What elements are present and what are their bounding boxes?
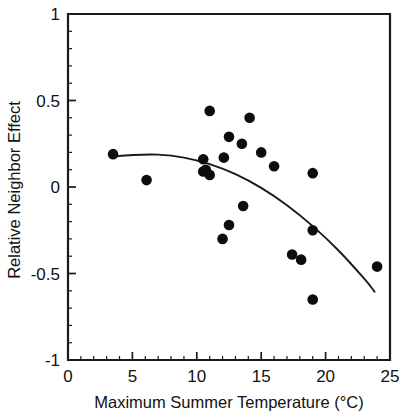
data-point xyxy=(244,113,255,124)
x-tick-label: 10 xyxy=(187,367,206,386)
y-tick-label: 0.5 xyxy=(36,92,60,111)
data-point xyxy=(307,168,318,179)
x-tick-label: 15 xyxy=(252,367,271,386)
x-tick-label: 25 xyxy=(381,367,400,386)
x-tick-label: 20 xyxy=(316,367,335,386)
plot-frame xyxy=(68,14,390,360)
data-point xyxy=(204,106,215,117)
data-point xyxy=(237,138,248,149)
x-tick-label: 5 xyxy=(128,367,137,386)
data-point xyxy=(217,234,228,245)
y-axis-ticks xyxy=(68,14,76,360)
y-tick-label: -1 xyxy=(45,351,60,370)
data-point xyxy=(224,220,235,231)
data-point xyxy=(307,294,318,305)
y-tick-label: 0 xyxy=(51,178,60,197)
fitted-curve xyxy=(113,154,374,291)
data-point xyxy=(204,170,215,181)
data-point xyxy=(287,249,298,260)
data-point xyxy=(307,225,318,236)
x-axis-title: Maximum Summer Temperature (°C) xyxy=(94,393,363,411)
y-tick-label: 1 xyxy=(51,5,60,24)
data-point xyxy=(198,154,209,165)
data-point xyxy=(219,152,230,163)
data-point xyxy=(296,254,307,265)
data-point xyxy=(269,161,280,172)
data-point xyxy=(108,149,119,160)
scatter-plot: 0510152025 10.50-0.5-1 Maximum Summer Te… xyxy=(0,0,406,420)
data-point xyxy=(256,147,267,158)
y-axis-tick-labels: 10.50-0.5-1 xyxy=(31,5,60,370)
data-points xyxy=(108,106,383,305)
x-axis-tick-labels: 0510152025 xyxy=(63,367,399,386)
data-point xyxy=(372,261,383,272)
data-point xyxy=(238,201,249,212)
x-axis-ticks xyxy=(68,352,390,360)
data-point xyxy=(224,132,235,143)
figure-container: 0510152025 10.50-0.5-1 Maximum Summer Te… xyxy=(0,0,406,420)
data-point xyxy=(141,175,152,186)
x-tick-label: 0 xyxy=(63,367,72,386)
y-axis-title: Relative Neighbor Effect xyxy=(5,101,23,279)
y-tick-label: -0.5 xyxy=(31,265,60,284)
